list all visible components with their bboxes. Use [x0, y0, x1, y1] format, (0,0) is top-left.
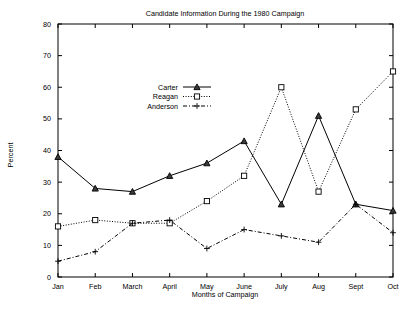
x-tick-label: Feb [89, 282, 101, 291]
data-point-marker-square [204, 199, 209, 204]
x-tick-label: April [162, 282, 177, 291]
y-tick-label: 20 [43, 209, 51, 218]
y-tick-label: 80 [43, 20, 51, 29]
data-point-marker-triangle [241, 138, 247, 144]
legend-label-reagan: Reagan [153, 92, 178, 101]
line-chart: Candidate Information During the 1980 Ca… [0, 0, 410, 310]
chart-container: Candidate Information During the 1980 Ca… [0, 0, 410, 310]
chart-title: Candidate Information During the 1980 Ca… [146, 9, 305, 18]
y-tick-label: 40 [43, 146, 51, 155]
data-point-marker-square [55, 224, 60, 229]
series-carter [55, 113, 396, 214]
data-point-marker-square [390, 69, 395, 74]
legend-marker-reagan [194, 94, 199, 99]
data-point-marker-square [353, 107, 358, 112]
x-tick-label: June [236, 282, 252, 291]
y-tick-label: 50 [43, 114, 51, 123]
x-tick-label: Aug [312, 282, 325, 291]
y-tick-label: 10 [43, 241, 51, 250]
x-axis-title: Months of Campaign [192, 290, 258, 299]
y-tick-label: 30 [43, 178, 51, 187]
series-layer [55, 69, 396, 264]
legend-item-carter[interactable]: Carter [158, 83, 211, 92]
series-line-reagan [58, 71, 393, 226]
data-point-marker-square [316, 189, 321, 194]
series-anderson [55, 201, 396, 264]
data-point-marker-square [93, 217, 98, 222]
x-axis-ticks: JanFebMarchAprilMayJuneJulyAugSeptOct [52, 24, 398, 291]
legend-item-anderson[interactable]: Anderson [147, 102, 211, 111]
data-point-marker-triangle [315, 113, 321, 119]
y-axis-ticks: 01020304050607080 [43, 20, 393, 282]
x-tick-label: Jan [52, 282, 64, 291]
data-point-marker-square [279, 85, 284, 90]
series-line-carter [58, 116, 393, 211]
y-tick-label: 70 [43, 51, 51, 60]
data-point-marker-triangle [278, 201, 284, 207]
x-tick-label: Sept [348, 282, 363, 291]
data-point-marker-square [242, 173, 247, 178]
legend-label-carter: Carter [158, 83, 179, 92]
legend-label-anderson: Anderson [147, 102, 178, 111]
x-tick-label: May [200, 282, 214, 291]
data-point-marker-triangle [204, 160, 210, 166]
x-tick-label: March [122, 282, 142, 291]
legend-item-reagan[interactable]: Reagan [153, 92, 211, 101]
x-tick-label: July [275, 282, 288, 291]
series-reagan [55, 69, 395, 229]
data-point-marker-triangle [55, 154, 61, 160]
series-line-anderson [58, 204, 393, 261]
chart-legend: CarterReaganAnderson [147, 83, 211, 111]
y-tick-label: 0 [47, 273, 51, 282]
x-tick-label: Oct [387, 282, 398, 291]
y-axis-title: Percent [6, 143, 15, 168]
y-tick-label: 60 [43, 83, 51, 92]
